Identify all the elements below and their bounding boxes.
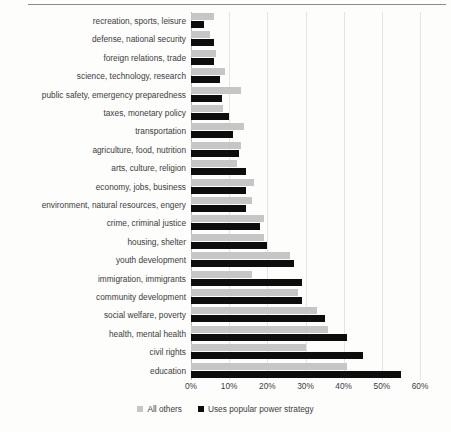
bar-all-others	[191, 252, 290, 259]
bar-all-others	[191, 234, 264, 241]
bar-row	[191, 30, 420, 48]
x-tick-label: 60%	[412, 381, 429, 391]
bar-all-others	[191, 215, 264, 222]
legend-item: Uses popular power strategy	[198, 404, 314, 414]
legend-swatch-icon	[137, 406, 143, 412]
chart-legend: All othersUses popular power strategy	[0, 404, 451, 414]
bar-popular-power-strategy	[191, 371, 401, 378]
bar-all-others	[191, 31, 210, 38]
bar-all-others	[191, 105, 223, 112]
category-label: transportation	[0, 122, 186, 140]
bar-all-others	[191, 142, 241, 149]
category-label: foreign relations, trade	[0, 49, 186, 67]
bar-row	[191, 214, 420, 232]
bar-row	[191, 306, 420, 324]
value-axis-tick-labels: 0%10%20%30%40%50%60%	[191, 381, 420, 395]
bar-all-others	[191, 160, 237, 167]
category-label: community development	[0, 288, 186, 306]
bar-all-others	[191, 123, 244, 130]
bar-row	[191, 362, 420, 380]
category-label: education	[0, 362, 186, 380]
bar-popular-power-strategy	[191, 131, 233, 138]
x-tick-label: 30%	[297, 381, 314, 391]
bar-row	[191, 196, 420, 214]
category-axis-labels: recreation, sports, leisuredefense, nati…	[0, 12, 186, 380]
category-label: social welfare, poverty	[0, 306, 186, 324]
category-label: youth development	[0, 251, 186, 269]
bar-row	[191, 233, 420, 251]
category-label: science, technology, research	[0, 67, 186, 85]
category-label: health, mental health	[0, 325, 186, 343]
bar-popular-power-strategy	[191, 76, 220, 83]
x-tick-label: 50%	[374, 381, 391, 391]
bar-row	[191, 325, 420, 343]
legend-swatch-icon	[198, 406, 204, 412]
bar-popular-power-strategy	[191, 58, 214, 65]
bar-all-others	[191, 363, 347, 370]
bar-popular-power-strategy	[191, 242, 267, 249]
category-label: crime, criminal justice	[0, 214, 186, 232]
category-label: agriculture, food, nutrition	[0, 141, 186, 159]
bar-all-others	[191, 197, 252, 204]
bar-row	[191, 270, 420, 288]
bar-all-others	[191, 50, 216, 57]
category-label: public safety, emergency preparedness	[0, 86, 186, 104]
legend-label: Uses popular power strategy	[208, 404, 314, 414]
bar-row	[191, 49, 420, 67]
bar-chart-figure: recreation, sports, leisuredefense, nati…	[0, 0, 451, 432]
bar-all-others	[191, 87, 241, 94]
category-label: housing, shelter	[0, 233, 186, 251]
category-label: defense, national security	[0, 30, 186, 48]
bar-row	[191, 251, 420, 269]
category-label: recreation, sports, leisure	[0, 12, 186, 30]
bar-all-others	[191, 289, 298, 296]
bar-all-others	[191, 179, 254, 186]
x-tick-label: 0%	[185, 381, 197, 391]
bar-popular-power-strategy	[191, 352, 363, 359]
top-divider	[28, 4, 446, 5]
bar-all-others	[191, 68, 225, 75]
plot-area	[191, 12, 420, 380]
bar-row	[191, 178, 420, 196]
bar-popular-power-strategy	[191, 260, 294, 267]
bar-popular-power-strategy	[191, 205, 246, 212]
bar-popular-power-strategy	[191, 187, 246, 194]
bar-row	[191, 159, 420, 177]
category-label: environment, natural resources, engery	[0, 196, 186, 214]
bar-popular-power-strategy	[191, 168, 246, 175]
bar-popular-power-strategy	[191, 223, 260, 230]
bar-popular-power-strategy	[191, 297, 302, 304]
bar-popular-power-strategy	[191, 113, 229, 120]
bar-popular-power-strategy	[191, 279, 302, 286]
category-label: arts, culture, religion	[0, 159, 186, 177]
bar-popular-power-strategy	[191, 315, 325, 322]
category-label: civil rights	[0, 343, 186, 361]
bar-all-others	[191, 13, 214, 20]
bar-popular-power-strategy	[191, 150, 239, 157]
x-tick-label: 20%	[259, 381, 276, 391]
bar-row	[191, 141, 420, 159]
x-tick-label: 40%	[335, 381, 352, 391]
bar-all-others	[191, 344, 306, 351]
bar-all-others	[191, 307, 317, 314]
bar-popular-power-strategy	[191, 95, 222, 102]
bar-all-others	[191, 271, 252, 278]
bar-row	[191, 288, 420, 306]
legend-item: All others	[137, 404, 182, 414]
bar-row	[191, 104, 420, 122]
bar-row	[191, 122, 420, 140]
category-label: immigration, immigrants	[0, 270, 186, 288]
category-label: taxes, monetary policy	[0, 104, 186, 122]
bar-row	[191, 343, 420, 361]
bar-all-others	[191, 326, 328, 333]
bar-popular-power-strategy	[191, 334, 347, 341]
bar-popular-power-strategy	[191, 39, 214, 46]
bar-row	[191, 12, 420, 30]
gridline-60pct	[420, 12, 421, 380]
category-label: economy, jobs, business	[0, 178, 186, 196]
bar-row	[191, 67, 420, 85]
x-tick-label: 10%	[221, 381, 238, 391]
legend-label: All others	[147, 404, 182, 414]
bar-popular-power-strategy	[191, 21, 204, 28]
bar-row	[191, 86, 420, 104]
